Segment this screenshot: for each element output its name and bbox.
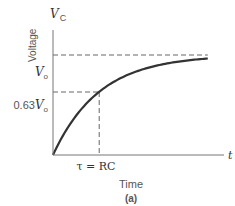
y-tick-vo: Vo [35,65,49,81]
y-axis-symbol: VC [50,7,67,23]
x-axis-symbol: t [228,149,233,162]
y-tick-063vo: 0.63Vo [13,98,48,114]
charging-curve [53,59,208,155]
y-axis-label: Voltage [27,28,38,62]
rc-charging-chart: VC Voltage t Time (a) τ = RC Vo 0.63Vo [0,0,235,206]
caption: (a) [125,193,137,204]
x-tick-tau: τ = RC [77,160,116,173]
x-axis-label: Time [119,178,143,190]
